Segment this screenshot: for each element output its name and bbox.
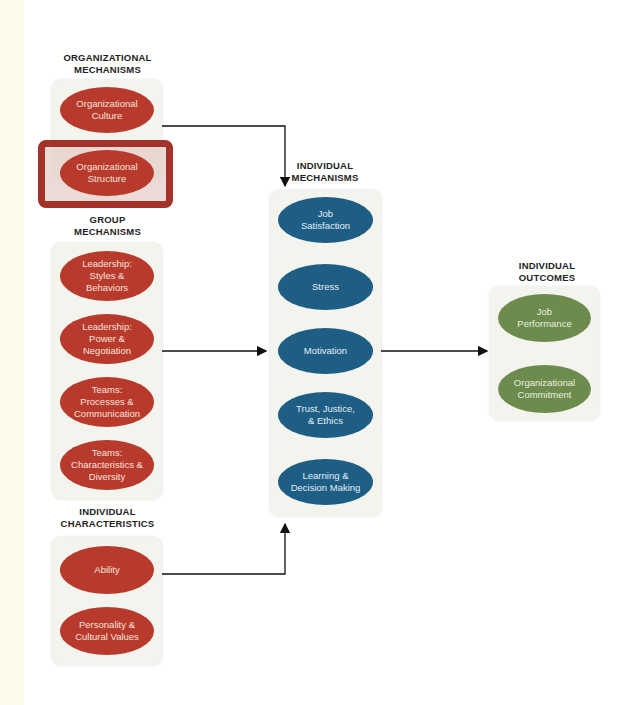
node-job-performance[interactable]: Job Performance bbox=[498, 294, 591, 342]
node-personality-cultural-values[interactable]: Personality & Cultural Values bbox=[60, 607, 154, 655]
heading-individual-mechanisms: INDIVIDUAL MECHANISMS bbox=[265, 160, 385, 184]
node-leadership-styles-behaviors[interactable]: Leadership: Styles & Behaviors bbox=[60, 251, 154, 301]
node-stress[interactable]: Stress bbox=[278, 264, 373, 310]
node-leadership-power-negotiation[interactable]: Leadership: Power & Negotiation bbox=[60, 314, 154, 364]
heading-individual-characteristics: INDIVIDUAL CHARACTERISTICS bbox=[35, 506, 180, 530]
node-organizational-structure[interactable]: Organizational Structure bbox=[60, 150, 154, 196]
node-organizational-culture[interactable]: Organizational Culture bbox=[60, 87, 154, 133]
heading-individual-outcomes: INDIVIDUAL OUTCOMES bbox=[488, 260, 606, 284]
node-job-satisfaction[interactable]: Job Satisfaction bbox=[278, 197, 373, 243]
node-ability[interactable]: Ability bbox=[60, 546, 154, 594]
heading-group-mechanisms: GROUP MECHANISMS bbox=[40, 214, 175, 238]
node-teams-characteristics-diversity[interactable]: Teams: Characteristics & Diversity bbox=[60, 440, 154, 490]
node-organizational-commitment[interactable]: Organizational Commitment bbox=[498, 365, 591, 413]
node-trust-justice-ethics[interactable]: Trust, Justice, & Ethics bbox=[278, 392, 373, 438]
heading-organizational-mechanisms: ORGANIZATIONAL MECHANISMS bbox=[40, 52, 175, 76]
node-learning-decision-making[interactable]: Learning & Decision Making bbox=[278, 459, 373, 505]
node-motivation[interactable]: Motivation bbox=[278, 328, 373, 374]
node-teams-processes-communication[interactable]: Teams: Processes & Communication bbox=[60, 377, 154, 427]
